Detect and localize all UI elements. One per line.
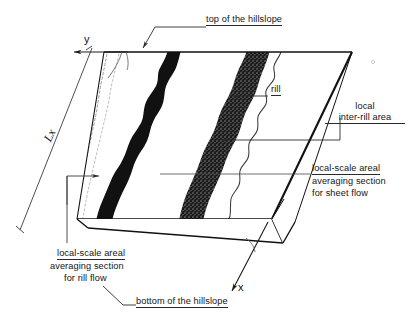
leader-top-of-hillslope <box>143 27 206 48</box>
label-bottom-of-hillslope: bottom of the hillslope <box>136 296 228 308</box>
leader-bottom-of-hillslope <box>103 286 136 305</box>
label-sheet-flow-line1: local-scale areal <box>312 163 380 175</box>
scan-artifact-dot <box>371 60 374 63</box>
hillslope-svg <box>0 0 410 320</box>
label-rill: rill <box>271 84 281 96</box>
axis-label-x: x <box>238 281 244 293</box>
axis-label-y: y <box>84 33 90 45</box>
label-top-of-hillslope: top of the hillslope <box>206 14 282 26</box>
label-inter-rill-area-line1: local <box>325 101 405 112</box>
label-sheet-flow-line3: for sheet flow <box>312 188 368 199</box>
hillslope-diagram: top of the hillslope y Lx rill local int… <box>0 0 410 320</box>
label-sheet-flow-line2: averaging section <box>312 176 386 187</box>
label-rill-flow-line1: local-scale areal <box>57 248 125 260</box>
label-rill-flow-line2: averaging section <box>50 261 124 272</box>
label-inter-rill-area-line2: inter-rill area <box>325 112 405 124</box>
label-rill-flow-line3: for rill flow <box>64 273 107 284</box>
